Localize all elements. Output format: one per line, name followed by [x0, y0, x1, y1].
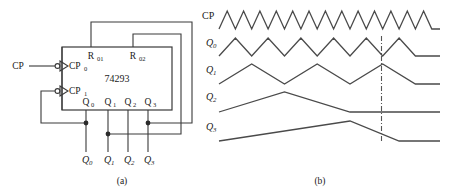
terminal-output-Q1: Q 1 — [104, 154, 114, 166]
cp0-sub: 0 — [84, 65, 87, 72]
chip-output-Q2-sub: 2 — [133, 101, 136, 108]
chip-output-pin-Q0: Q 0 — [83, 97, 95, 108]
terminal-output-Q3: Q 3 — [144, 154, 155, 166]
chip-output-Q2-base: Q — [125, 97, 132, 107]
timing-row-label-Q2: Q 2 — [206, 91, 217, 103]
waveform-trace-CP — [219, 11, 440, 29]
reset-pin-R02-base: R — [130, 51, 137, 61]
cp1-base: CP — [69, 86, 81, 96]
panel-b-caption: (b) — [314, 176, 325, 187]
timing-label-Q2-sub: 2 — [213, 96, 217, 103]
chip-output-pin-Q3: Q 3 — [145, 97, 157, 108]
cp1-sub: 1 — [84, 90, 87, 97]
cp-input-label: CP — [12, 61, 24, 71]
timing-row-label-CP: CP — [202, 10, 215, 21]
waveform-trace-Q3 — [219, 121, 440, 141]
chip-output-Q3-sub: 3 — [153, 101, 156, 108]
cp1-inversion-bubble — [55, 89, 60, 94]
reset-pin-R01: R 01 — [88, 51, 104, 62]
reset-pin-R01-sub: 01 — [97, 55, 104, 62]
figure-root: 74293 R 01 R 02 Q 0 Q 1 Q 2 Q 3 CP — [0, 0, 453, 192]
cp0-buffer-triangle — [60, 61, 68, 71]
q1-to-r02-feedback-wire — [108, 34, 181, 134]
terminal-output-Q0: Q 0 — [82, 154, 93, 166]
timing-label-Q3-sub: 3 — [212, 126, 217, 133]
panel-a-caption: (a) — [117, 176, 128, 187]
circuit-schematic-panel: 74293 R 01 R 02 Q 0 Q 1 Q 2 Q 3 CP — [0, 0, 226, 192]
timing-label-CP-base: CP — [202, 10, 215, 21]
chip-output-Q3-base: Q — [145, 97, 152, 107]
terminal-Q2-sub: 2 — [131, 159, 135, 166]
timing-row-label-Q3: Q 3 — [206, 121, 217, 133]
cp1-buffer-triangle — [60, 86, 68, 96]
cp0-base: CP — [69, 61, 81, 71]
junction-dot-q0 — [84, 121, 89, 126]
timing-label-Q0-sub: 0 — [213, 42, 217, 49]
junction-dot-q3 — [146, 121, 151, 126]
terminal-output-Q2: Q 2 — [124, 154, 135, 166]
terminal-Q0-sub: 0 — [89, 159, 93, 166]
reset-pin-R02: R 02 — [130, 51, 146, 62]
waveform-trace-Q1 — [219, 64, 440, 84]
chip-output-Q0-base: Q — [83, 97, 90, 107]
chip-output-Q1-sub: 1 — [113, 101, 116, 108]
waveform-trace-Q0 — [219, 38, 440, 56]
reset-pin-R01-base: R — [88, 51, 95, 61]
timing-diagram-panel: CP Q 0 Q 1 Q 2 Q 3 (b) — [197, 0, 453, 192]
timing-row-label-Q0: Q 0 — [206, 37, 217, 49]
cp1-pin-label: CP 1 — [69, 86, 87, 97]
chip-output-pin-Q1: Q 1 — [105, 97, 117, 108]
cp0-inversion-bubble — [55, 64, 60, 69]
chip-output-pin-Q2: Q 2 — [125, 97, 137, 108]
timing-row-label-Q1: Q 1 — [206, 64, 216, 76]
terminal-Q3-sub: 3 — [150, 159, 155, 166]
reset-pin-R02-sub: 02 — [139, 55, 146, 62]
chip-output-Q0-sub: 0 — [91, 101, 94, 108]
junction-dot-q1 — [106, 132, 111, 137]
chip-output-Q1-base: Q — [105, 97, 112, 107]
waveform-trace-Q2 — [219, 92, 440, 112]
cp0-pin-label: CP 0 — [69, 61, 87, 72]
chip-label: 74293 — [105, 73, 130, 84]
terminal-Q1-sub: 1 — [111, 159, 114, 166]
timing-label-Q1-sub: 1 — [213, 69, 216, 76]
